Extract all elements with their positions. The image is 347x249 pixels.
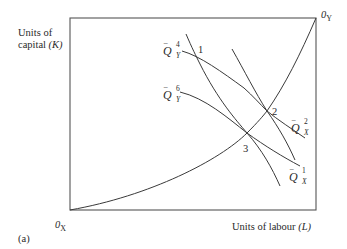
- y-axis-symbol: (K): [49, 39, 63, 50]
- isoquant-qy4-label: ‾ Q 4 Y: [163, 44, 172, 59]
- superscript: 6: [176, 84, 180, 93]
- subscript: Y: [176, 51, 180, 60]
- point-3-label: 3: [243, 143, 248, 154]
- superscript: 4: [176, 40, 180, 49]
- x-axis-symbol: (L): [298, 221, 311, 232]
- y-axis-label-line1: Units of: [18, 27, 63, 39]
- point-1-label: 1: [198, 44, 203, 55]
- superscript: 1: [302, 166, 306, 175]
- origin-y-sub: Y: [326, 14, 332, 23]
- q-symbol: Q: [291, 121, 300, 135]
- x-axis-label: Units of labour (L): [232, 221, 311, 233]
- y-axis-label-line2: capital: [18, 39, 49, 50]
- q-symbol: Q: [163, 88, 172, 102]
- subscript: X: [304, 128, 309, 137]
- point-2-label: 2: [272, 106, 277, 117]
- isoquant-qx2-label: ‾ Q 2 X: [291, 121, 300, 136]
- subscript: X: [302, 177, 307, 186]
- isoquant-qx2-curve: [232, 49, 295, 160]
- contract-curve: [70, 18, 316, 210]
- origin-x-sub: X: [60, 224, 66, 233]
- q-symbol: Q: [289, 170, 298, 184]
- y-axis-label: Units of capital (K): [18, 27, 63, 51]
- panel-label: (a): [18, 233, 30, 245]
- q-symbol: Q: [163, 44, 172, 58]
- origin-x: 0X: [55, 219, 66, 232]
- isoquant-qy6-curve: [180, 92, 300, 166]
- origin-y: 0Y: [321, 9, 332, 22]
- edgeworth-box-frame: [70, 18, 316, 210]
- isoquant-qy6-label: ‾ Q 6 Y: [163, 88, 172, 103]
- superscript: 2: [304, 117, 308, 126]
- subscript: Y: [176, 95, 180, 104]
- x-axis-label-text: Units of labour: [232, 221, 298, 232]
- isoquant-qx1-label: ‾ Q 1 X: [289, 170, 298, 185]
